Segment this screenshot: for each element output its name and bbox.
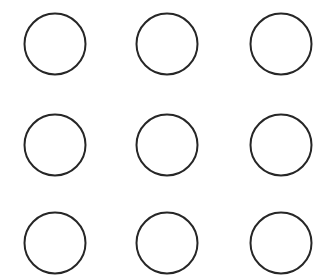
circle-grid-canvas — [0, 0, 322, 280]
canvas-background — [0, 0, 322, 280]
circle-grid-svg — [0, 0, 322, 280]
